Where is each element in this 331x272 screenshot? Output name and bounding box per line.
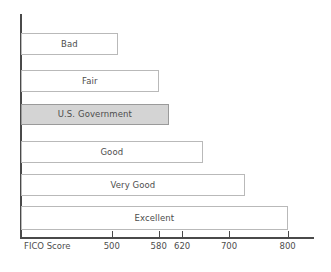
x-axis-title: FICO Score	[24, 242, 71, 251]
bar-label: Excellent	[134, 214, 174, 223]
bar-label: Good	[100, 148, 123, 157]
bar-label: Very Good	[110, 181, 155, 190]
tick-mark-700	[229, 231, 230, 238]
bar-label: Bad	[61, 40, 78, 49]
bar-excellent: Excellent	[21, 206, 288, 230]
bar-bad: Bad	[21, 33, 118, 55]
bar-very-good: Very Good	[21, 174, 245, 196]
bar-fair: Fair	[21, 70, 159, 92]
tick-mark-500	[112, 231, 113, 238]
tick-mark-800	[288, 231, 289, 238]
tick-label-620: 620	[174, 242, 190, 251]
bar-us-government: U.S. Government	[21, 104, 169, 125]
tick-label-800: 800	[280, 242, 296, 251]
bar-good: Good	[21, 141, 203, 163]
tick-label-580: 580	[151, 242, 167, 251]
bars-layer: Bad Fair U.S. Government Good Very Good …	[0, 0, 331, 272]
x-axis-line	[20, 237, 314, 239]
tick-label-500: 500	[104, 242, 120, 251]
bar-label: Fair	[82, 77, 98, 86]
tick-mark-620	[182, 231, 183, 238]
fico-score-bar-chart: Bad Fair U.S. Government Good Very Good …	[0, 0, 331, 272]
tick-mark-580	[159, 231, 160, 238]
tick-label-700: 700	[221, 242, 237, 251]
bar-label: U.S. Government	[58, 110, 132, 119]
